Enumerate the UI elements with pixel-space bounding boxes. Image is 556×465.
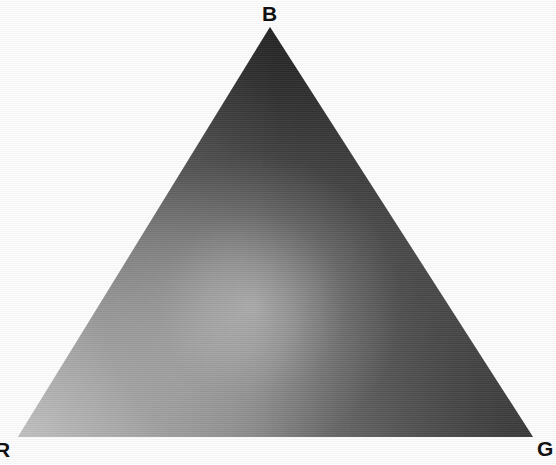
vertex-label-g: G [537, 438, 553, 459]
color-triangle-plot [0, 0, 556, 465]
triangle-gradient-body [0, 0, 556, 465]
vertex-label-b: B [262, 3, 277, 24]
color-triangle-figure: B R G [0, 0, 556, 465]
vertex-label-r: R [0, 439, 10, 460]
